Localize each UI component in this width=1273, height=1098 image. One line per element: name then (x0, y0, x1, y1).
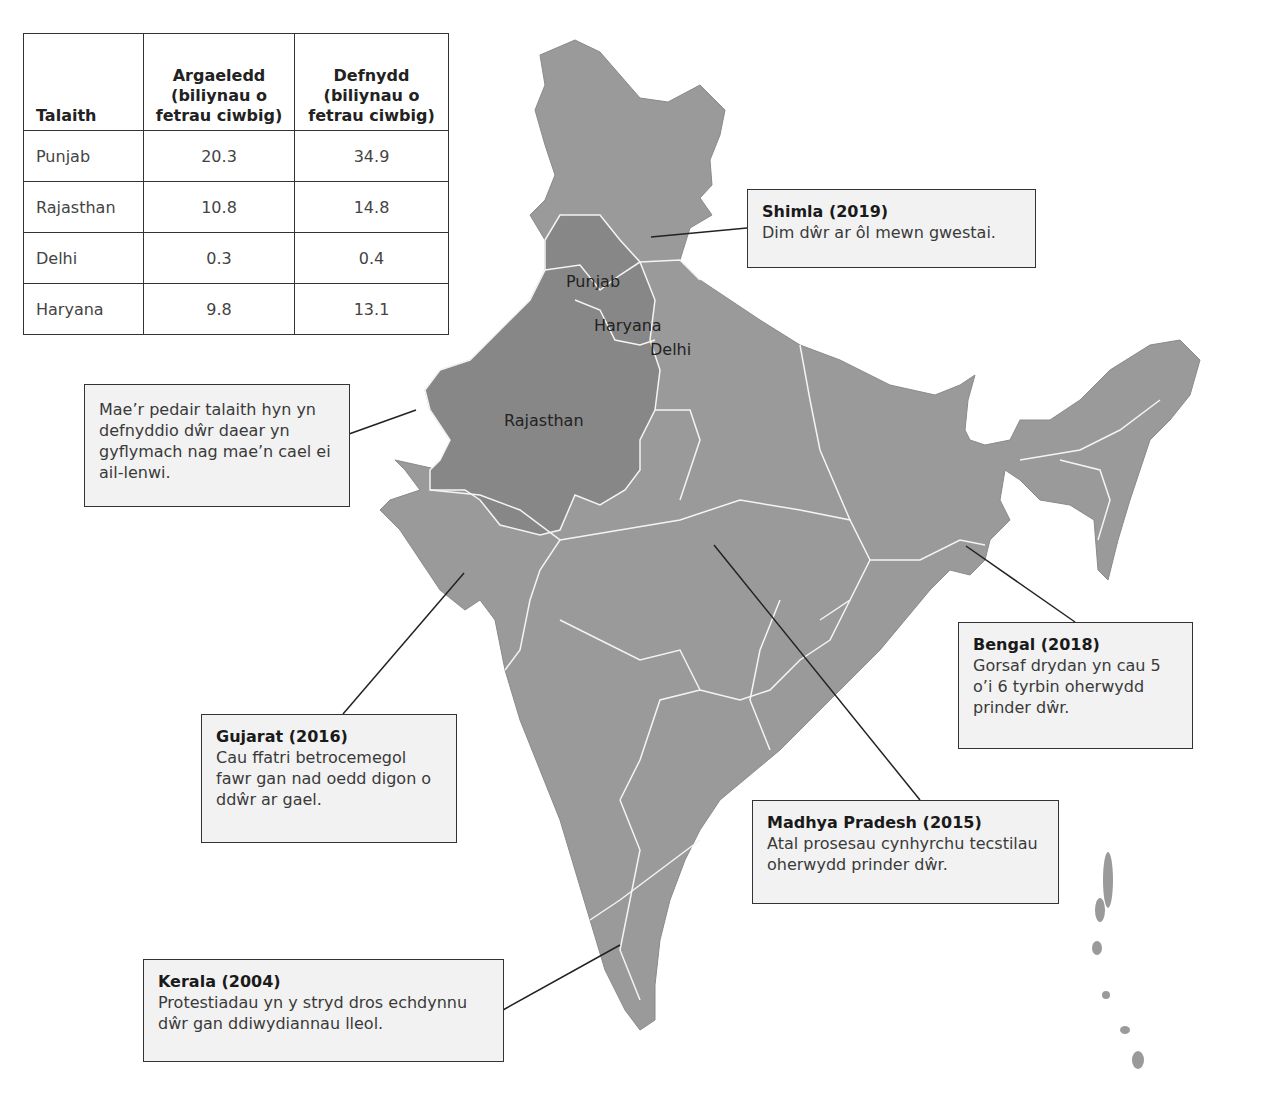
callout-title: Madhya Pradesh (2015) (767, 812, 1044, 833)
water-data-table: Talaith Argaeledd (biliynau o fetrau ciw… (23, 33, 449, 335)
callout-bengal: Bengal (2018) Gorsaf drydan yn cau 5 o’i… (958, 622, 1193, 749)
cell-state: Rajasthan (24, 182, 144, 233)
callout-text: Gorsaf drydan yn cau 5 o’i 6 tyrbin oher… (973, 656, 1161, 717)
cell-availability: 0.3 (144, 233, 295, 284)
cell-state: Punjab (24, 131, 144, 182)
label-haryana: Haryana (594, 316, 662, 335)
label-delhi: Delhi (650, 340, 691, 359)
cell-usage: 14.8 (295, 182, 449, 233)
callout-text: Mae’r pedair talaith hyn yn defnyddio dŵ… (99, 400, 331, 482)
cell-state: Haryana (24, 284, 144, 335)
callout-title: Bengal (2018) (973, 634, 1178, 655)
table-row: Punjab 20.3 34.9 (24, 131, 449, 182)
callout-text: Dim dŵr ar ôl mewn gwestai. (762, 223, 996, 242)
table-row: Haryana 9.8 13.1 (24, 284, 449, 335)
callout-text: Cau ffatri betrocemegol fawr gan nad oed… (216, 748, 431, 809)
table-row: Delhi 0.3 0.4 (24, 233, 449, 284)
andaman-nicobar-islands (1092, 852, 1144, 1069)
cell-state: Delhi (24, 233, 144, 284)
cell-availability: 20.3 (144, 131, 295, 182)
callout-shimla: Shimla (2019) Dim dŵr ar ôl mewn gwestai… (747, 189, 1036, 268)
header-availability: Argaeledd (biliynau o fetrau ciwbig) (144, 34, 295, 131)
table-header-row: Talaith Argaeledd (biliynau o fetrau ciw… (24, 34, 449, 131)
callout-kerala: Kerala (2004) Protestiadau yn y stryd dr… (143, 959, 504, 1062)
table-row: Rajasthan 10.8 14.8 (24, 182, 449, 233)
highlighted-states-region (425, 215, 660, 535)
label-punjab: Punjab (566, 272, 620, 291)
header-usage: Defnydd (biliynau o fetrau ciwbig) (295, 34, 449, 131)
cell-availability: 10.8 (144, 182, 295, 233)
callout-title: Kerala (2004) (158, 971, 489, 992)
cell-availability: 9.8 (144, 284, 295, 335)
callout-groundwater: Mae’r pedair talaith hyn yn defnyddio dŵ… (84, 384, 350, 507)
callout-text: Atal prosesau cynhyrchu tecstilau oherwy… (767, 834, 1038, 874)
cell-usage: 13.1 (295, 284, 449, 335)
callout-text: Protestiadau yn y stryd dros echdynnu dŵ… (158, 993, 467, 1033)
callout-title: Shimla (2019) (762, 201, 1021, 222)
header-state: Talaith (24, 34, 144, 131)
callout-gujarat: Gujarat (2016) Cau ffatri betrocemegol f… (201, 714, 457, 843)
callout-title: Gujarat (2016) (216, 726, 442, 747)
cell-usage: 0.4 (295, 233, 449, 284)
cell-usage: 34.9 (295, 131, 449, 182)
label-rajasthan: Rajasthan (504, 411, 584, 430)
callout-madhya-pradesh: Madhya Pradesh (2015) Atal prosesau cynh… (752, 800, 1059, 904)
